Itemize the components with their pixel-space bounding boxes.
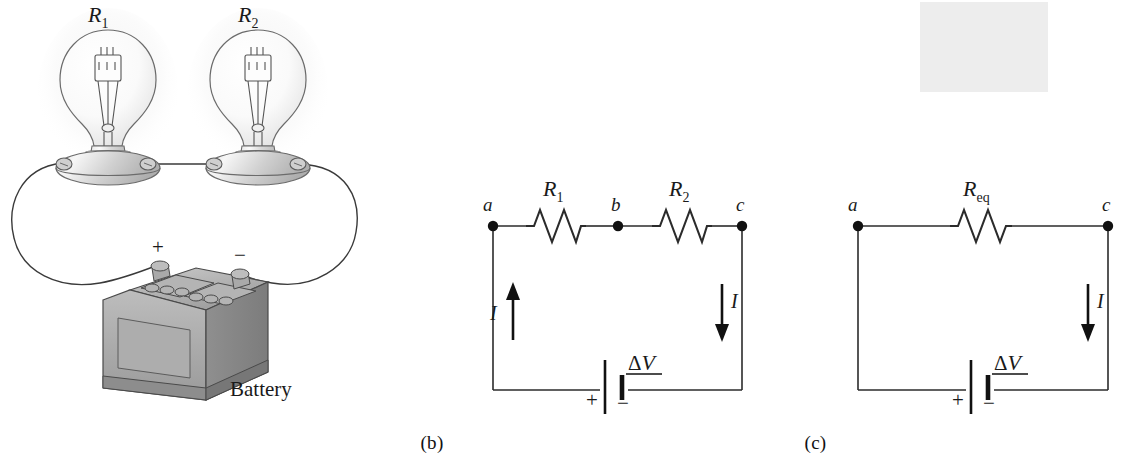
caption-c: (c) (635, 432, 996, 454)
current-arrow-left (506, 282, 520, 340)
source-minus-label: − (983, 391, 995, 415)
current-right-label: I (1096, 290, 1105, 312)
bulb-1-label-r: R (87, 2, 102, 27)
wire-loop (12, 163, 357, 284)
node-a-label: a (848, 194, 858, 215)
node-c-label: c (736, 194, 745, 215)
resistor-1-label-r: R (542, 176, 557, 201)
node-c-label: c (1102, 194, 1111, 215)
current-left-label: I (489, 302, 498, 324)
current-arrow-right (1081, 284, 1095, 342)
panel-a-drawing: R1 (0, 0, 400, 472)
resistor-1-symbol (526, 210, 586, 242)
node-b-label: b (611, 194, 621, 215)
panel-a-physical-circuit: R1 (0, 0, 400, 472)
resistor-eq-label: Req (962, 176, 990, 205)
source-v-symbol: V (642, 350, 658, 375)
source-delta-symbol: Δ (628, 351, 642, 375)
resistor-1-label-sub: 1 (556, 190, 563, 205)
resistor-eq-label-r: R (962, 176, 977, 201)
current-arrow-right (715, 284, 729, 342)
physics-figure-resistors-in-series: R1 (0, 0, 1141, 472)
node-b-dot (613, 221, 623, 231)
resistor-1-label: R1 (542, 176, 563, 205)
panel-c-drawing: a c Req I + − ΔV (780, 0, 1141, 472)
bulb-1-terminal-right (140, 158, 156, 170)
battery-minus-sign: − (234, 243, 246, 267)
bulb-1-label-sub: 1 (101, 16, 108, 31)
resistor-eq-symbol (950, 210, 1012, 242)
circuit-c-wires (858, 226, 1108, 390)
battery-text-label: Battery (230, 377, 292, 401)
resistor-eq-label-sub: eq (976, 190, 989, 205)
bulb-2-terminal-left (206, 158, 222, 170)
source-voltage-label: ΔV (628, 350, 658, 375)
node-a-label: a (483, 194, 493, 215)
panel-b-drawing: a b c R1 R2 I I (400, 0, 780, 472)
resistor-2-label: R2 (668, 176, 689, 205)
battery-plus-sign: + (152, 235, 164, 259)
equivalent-resistance-highlight (920, 2, 1048, 92)
caption-a: (a) (0, 432, 178, 454)
panel-b-series-schematic: a b c R1 R2 I I (400, 0, 780, 472)
node-a-dot (488, 221, 498, 231)
light-bulb-1 (56, 30, 160, 185)
bulb-1-terminal-left (56, 158, 72, 170)
bulb-2-terminal-right (290, 158, 306, 170)
resistor-2-label-r: R (668, 176, 683, 201)
source-minus-label: − (617, 391, 629, 415)
panel-c-equivalent-schematic: a c Req I + − ΔV (c) (780, 0, 1141, 472)
resistor-2-symbol (652, 210, 712, 242)
source-delta-symbol: Δ (994, 351, 1008, 375)
bulb-1-label: R1 (87, 2, 108, 31)
node-c-dot (737, 221, 747, 231)
source-v-symbol: V (1008, 350, 1024, 375)
circuit-b-wires (493, 226, 742, 390)
source-plus-label: + (952, 388, 964, 412)
source-voltage-label: ΔV (994, 350, 1024, 375)
bulb-2-label: R2 (237, 2, 258, 31)
source-plus-label: + (586, 388, 598, 412)
current-right-label: I (730, 290, 739, 312)
bulb-2-label-sub: 2 (251, 16, 258, 31)
caption-b: (b) (242, 432, 622, 454)
bulb-2-label-r: R (237, 2, 252, 27)
resistor-2-label-sub: 2 (682, 190, 689, 205)
light-bulb-2 (206, 30, 310, 185)
node-c-dot (1103, 221, 1113, 231)
node-a-dot (853, 221, 863, 231)
